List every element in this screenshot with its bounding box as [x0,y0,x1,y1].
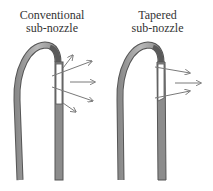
tapered-outlet [158,64,164,101]
conventional-outlet [56,64,62,104]
tapered-nozzle [120,45,201,180]
nozzle-diagram [0,0,213,191]
conventional-nozzle [17,42,95,180]
